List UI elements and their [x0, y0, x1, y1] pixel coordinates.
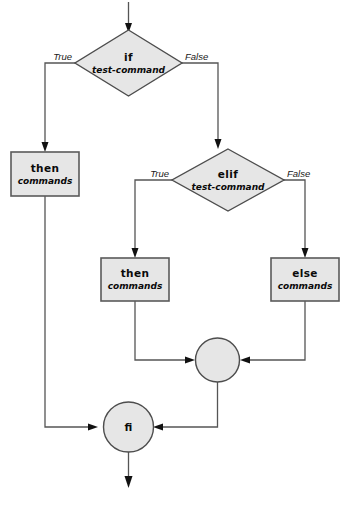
edge-then-outer-to-fi — [45, 196, 92, 427]
arrowhead-exit — [125, 476, 133, 488]
edge-label-if-true: True — [53, 51, 72, 62]
edge-merge-to-fi — [159, 382, 218, 427]
arrowhead-elif-true — [132, 248, 139, 258]
node-merge-junction[interactable] — [196, 338, 240, 382]
node-then-outer[interactable]: then commands — [11, 152, 79, 196]
then-inner-sub-label: commands — [108, 281, 163, 291]
edge-label-if-false: False — [185, 51, 208, 62]
then-outer-box-shape — [11, 152, 79, 196]
edge-elif-true — [135, 180, 172, 252]
node-elif-test[interactable]: elif test-command — [172, 149, 284, 211]
else-keyword-label: else — [292, 267, 318, 279]
then-inner-keyword-label: then — [121, 267, 150, 279]
flowchart-canvas: if test-command True False then commands… — [0, 0, 350, 506]
edge-elif-false — [284, 180, 305, 252]
then-outer-keyword-label: then — [31, 162, 60, 174]
then-inner-box-shape — [101, 258, 169, 301]
if-diamond-shape — [75, 30, 182, 96]
elif-keyword-label: elif — [218, 168, 239, 180]
node-then-inner[interactable]: then commands — [101, 258, 169, 301]
arrowhead-elif-false — [302, 248, 309, 258]
merge-circle-shape — [196, 338, 240, 382]
arrowhead-then-inner-merge — [185, 357, 195, 364]
arrowhead-merge-fi — [153, 424, 163, 431]
if-keyword-label: if — [124, 51, 133, 63]
edge-label-elif-true: True — [150, 168, 169, 179]
else-sub-label: commands — [278, 281, 333, 291]
else-box-shape — [271, 258, 339, 301]
if-sub-label: test-command — [92, 65, 166, 75]
fi-label: fi — [125, 421, 133, 433]
flowchart-diagram: if test-command True False then commands… — [0, 0, 350, 506]
edge-label-elif-false: False — [287, 168, 310, 179]
edge-if-false — [182, 63, 218, 143]
arrowhead-if-true — [42, 142, 49, 152]
elif-sub-label: test-command — [192, 182, 266, 192]
edge-else-to-merge — [246, 301, 305, 360]
node-if-test[interactable]: if test-command — [75, 30, 182, 96]
edge-then-inner-to-merge — [135, 301, 189, 360]
arrowhead-else-merge — [240, 357, 250, 364]
elif-diamond-shape — [172, 149, 284, 211]
node-else-inner[interactable]: else commands — [271, 258, 339, 301]
edge-if-true — [45, 63, 75, 146]
arrowhead-then-outer-fi — [88, 424, 98, 431]
arrowhead-if-false — [215, 139, 222, 149]
then-outer-sub-label: commands — [18, 176, 73, 186]
figure-caption — [0, 492, 350, 506]
node-fi-terminal[interactable]: fi — [104, 402, 154, 452]
